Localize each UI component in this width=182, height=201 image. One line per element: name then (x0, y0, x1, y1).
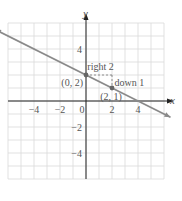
x-axis-label: x (169, 94, 175, 106)
point-marker (84, 73, 89, 78)
point-label: (0, 2) (61, 77, 83, 89)
x-tick-label: −2 (55, 104, 66, 115)
y-tick-label: −2 (71, 122, 82, 133)
x-tick-label: −4 (29, 104, 40, 115)
axes (8, 13, 174, 179)
point-label: (2, 1) (100, 91, 122, 103)
annotation-right-2: right 2 (87, 61, 113, 72)
x-tick-label: 4 (136, 104, 141, 115)
y-tick-label: −4 (71, 148, 82, 159)
y-tick-label: 4 (77, 44, 82, 55)
x-tick-label: 0 (80, 104, 85, 115)
point-marker (110, 86, 115, 91)
annotations: right 2down 1(0, 2)(2, 1) (61, 61, 144, 103)
x-tick-label: 2 (110, 104, 115, 115)
annotation-down-1: down 1 (115, 77, 145, 88)
y-axis-label: y (82, 7, 88, 19)
coordinate-plane: −4−20244−2−4 right 2down 1(0, 2)(2, 1) x… (0, 0, 182, 201)
